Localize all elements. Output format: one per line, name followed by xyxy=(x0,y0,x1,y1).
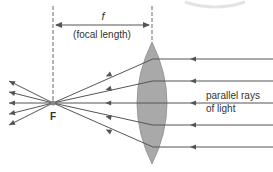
lens-diagram: f (focal length) F parallel rays of ligh… xyxy=(0,0,273,172)
focal-point-label: F xyxy=(50,111,56,122)
focal-length-symbol: f xyxy=(101,10,105,22)
incoming-ray-arrowhead xyxy=(190,144,196,149)
diverging-ray xyxy=(9,81,53,103)
dimension-arrowhead-right xyxy=(143,22,150,28)
incoming-ray-arrowhead xyxy=(190,56,196,61)
focal-point-marker xyxy=(51,101,56,106)
incoming-ray-arrowhead xyxy=(190,122,196,127)
parallel-rays-label-line2: of light xyxy=(206,103,236,114)
background-artifact xyxy=(185,2,245,7)
diverging-ray-arrowhead xyxy=(8,120,16,127)
diverging-ray-arrowhead xyxy=(8,89,15,96)
diverging-ray xyxy=(9,92,53,103)
diverging-ray xyxy=(9,103,53,125)
dimension-arrowhead-left xyxy=(55,22,62,28)
focal-length-caption: (focal length) xyxy=(73,29,131,40)
diverging-ray-arrowhead xyxy=(9,100,15,105)
incoming-ray-arrowhead xyxy=(190,100,196,105)
parallel-rays-label-line1: parallel rays xyxy=(206,90,260,101)
diverging-ray xyxy=(9,103,53,114)
incoming-ray-arrowhead xyxy=(190,78,196,83)
diverging-ray-arrowhead xyxy=(8,79,16,86)
refracted-ray-arrowhead xyxy=(105,100,111,105)
diverging-ray-arrowhead xyxy=(8,110,15,117)
